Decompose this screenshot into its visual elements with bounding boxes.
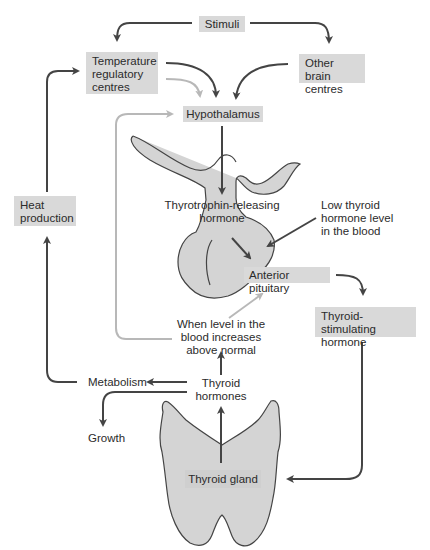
- trh-line-2: hormone: [163, 212, 281, 225]
- arrow-stimuli-to-other-brain: [250, 23, 329, 42]
- arrow-heat-production-to-temperature: [47, 71, 78, 192]
- low-thyroid-line-2: hormone level: [321, 212, 411, 225]
- arrow-tsh-to-thyroid-gland: [288, 342, 362, 479]
- temperature-line-3: centres: [92, 81, 152, 94]
- level-line-3: above normal: [170, 344, 272, 357]
- node-thyroid-gland: Thyroid gland: [185, 470, 261, 488]
- node-thyrotrophin-releasing-hormone: Thyrotrophin-releasing hormone: [163, 199, 281, 225]
- node-hypothalamus: Hypothalamus: [183, 106, 263, 122]
- node-level-increases-above-normal: When level in the blood increases above …: [170, 318, 272, 357]
- level-line-2: blood increases: [170, 331, 272, 344]
- arrow-anterior-pituitary-to-tsh: [336, 275, 363, 294]
- heat-line-2: production: [20, 212, 70, 225]
- node-low-thyroid-level: Low thyroid hormone level in the blood: [321, 199, 411, 238]
- temperature-line-2: regulatory: [92, 68, 152, 81]
- low-thyroid-line-1: Low thyroid: [321, 199, 411, 212]
- node-anterior-pituitary: Anterior pituitary: [244, 267, 330, 283]
- other-brain-line-1: Other brain: [305, 57, 359, 83]
- arrow-feedback-to-anterior-pituitary: [229, 294, 262, 318]
- heat-line-1: Heat: [20, 199, 70, 212]
- tsh-line-2: hormone: [321, 336, 410, 349]
- node-thyroid-hormones: Thyroid hormones: [190, 377, 252, 403]
- trh-line-1: Thyrotrophin-releasing: [163, 199, 281, 212]
- arrow-temperature-to-hypothalamus-inhibitory: [166, 79, 200, 96]
- node-temperature-regulatory-centres: Temperature regulatory centres: [86, 52, 158, 94]
- level-line-1: When level in the: [170, 318, 272, 331]
- thyroid-hormones-line-1: Thyroid: [190, 377, 252, 390]
- temperature-line-1: Temperature: [92, 55, 152, 68]
- arrow-stimuli-to-temperature: [117, 23, 192, 40]
- node-thyroid-stimulating-hormone: Thyroid-stimulating hormone: [315, 307, 416, 337]
- node-metabolism: Metabolism: [88, 376, 147, 389]
- tsh-line-1: Thyroid-stimulating: [321, 310, 410, 336]
- node-heat-production: Heat production: [14, 196, 76, 226]
- low-thyroid-line-3: in the blood: [321, 225, 411, 238]
- node-stimuli: Stimuli: [199, 16, 245, 32]
- node-other-brain-centres: Other brain centres: [299, 54, 365, 83]
- arrow-other-brain-to-hypothalamus: [236, 64, 288, 98]
- thyroid-hormones-line-2: hormones: [190, 390, 252, 403]
- diagram-canvas: [0, 0, 430, 550]
- node-growth: Growth: [88, 432, 125, 445]
- arrow-metabolism-to-heat-production: [47, 238, 77, 382]
- other-brain-line-2: centres: [305, 83, 359, 96]
